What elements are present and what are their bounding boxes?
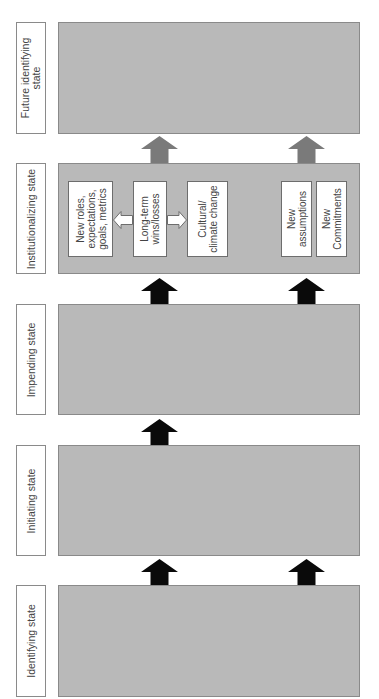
item-line: Cultural/ — [197, 185, 208, 252]
black-up-arrow-icon — [141, 559, 178, 585]
item-line: assumptions — [297, 191, 308, 247]
label-text: Initiating state — [26, 468, 37, 533]
item-line: New — [286, 191, 297, 247]
item-new-assumptions: New assumptions — [281, 181, 312, 257]
black-up-arrow-icon — [288, 559, 325, 585]
white-arrow-left-icon — [113, 211, 133, 229]
black-up-arrow-icon — [141, 278, 178, 304]
state-box-future-identifying — [58, 22, 360, 134]
label-impending-state: Impending state — [16, 304, 46, 415]
item-line: New — [321, 188, 332, 250]
label-future-identifying-state: Future identifying state — [16, 22, 46, 134]
label-identifying-state: Identifying state — [16, 585, 46, 697]
label-line: state — [31, 38, 42, 119]
label-text: Impending state — [26, 322, 37, 397]
label-initiating-state: Initiating state — [16, 445, 46, 556]
white-arrow-right-icon — [167, 211, 187, 229]
item-line: expectations, — [85, 188, 96, 250]
state-box-institutionalizing: New roles, expectations, goals, metrics … — [58, 163, 360, 274]
gray-up-arrow-icon — [288, 136, 325, 163]
item-line: Long-term — [139, 193, 150, 244]
item-line: New roles, — [74, 188, 85, 250]
label-text: Institutionalizing state — [26, 168, 37, 268]
label-institutionalizing-state: Institutionalizing state — [16, 163, 46, 274]
state-box-initiating — [58, 445, 360, 556]
black-up-arrow-icon — [288, 278, 325, 304]
item-line: goals, metrics — [96, 188, 107, 250]
item-new-commitments: New Commitments — [316, 181, 347, 257]
item-new-roles: New roles, expectations, goals, metrics — [68, 181, 113, 257]
state-box-identifying — [58, 585, 360, 697]
item-line: wins/losses — [150, 193, 161, 244]
gray-up-arrow-icon — [141, 136, 178, 163]
state-box-impending — [58, 304, 360, 415]
item-long-term-wins-losses: Long-term wins/losses — [133, 181, 167, 257]
item-cultural-climate-change: Cultural/ climate change — [187, 181, 228, 257]
label-text: Identifying state — [26, 604, 37, 678]
item-line: climate change — [208, 185, 219, 252]
black-up-arrow-icon — [141, 419, 178, 445]
item-line: Commitments — [332, 188, 343, 250]
